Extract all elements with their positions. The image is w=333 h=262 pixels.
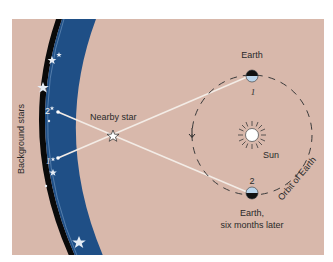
earth-bottom-label-line1: Earth, [240, 208, 264, 218]
star-icon [48, 120, 50, 122]
background-position-1-marker [56, 156, 60, 160]
star-icon [45, 185, 47, 187]
background-position-2-marker [56, 110, 60, 114]
background-stars-label: Background stars [16, 103, 26, 174]
nearby-star-label: Nearby star [90, 112, 137, 122]
sun-icon [238, 121, 266, 149]
background-position-2-label: 2 [45, 106, 50, 116]
background-position-1-label: 1 [46, 156, 51, 166]
parallax-diagram: 2 1 Sun Earth 1 2 [0, 0, 333, 262]
sun-label: Sun [263, 150, 279, 160]
earth-top-label: Earth [241, 50, 263, 60]
earth-bottom-label-line2: six months later [220, 220, 283, 230]
earth-position-2-number: 2 [249, 176, 254, 186]
earth-position-1-number: 1 [251, 87, 256, 97]
